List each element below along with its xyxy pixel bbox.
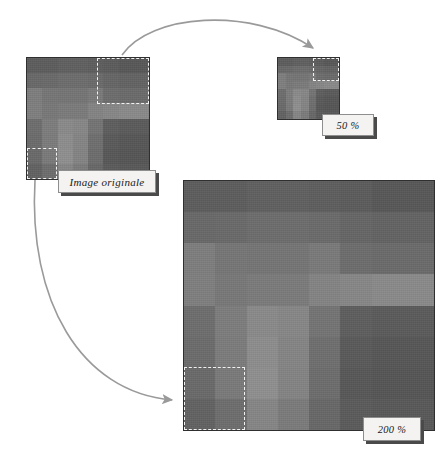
pixel-block [42, 134, 57, 149]
pixel-block [42, 88, 57, 103]
pixel-block [88, 73, 103, 88]
pixel-block [403, 368, 434, 399]
enlarged-image-panel[interactable] [183, 180, 435, 431]
pixel-block [184, 368, 215, 399]
pixel-block [119, 58, 134, 73]
pixel-block [316, 104, 324, 112]
pixel-block [331, 58, 339, 66]
pixel-block [340, 181, 371, 212]
pixel-block [42, 58, 57, 73]
pixel-block [247, 306, 278, 337]
pixel-block [316, 66, 324, 74]
pixel-block [27, 149, 42, 164]
pixel-block [286, 89, 294, 97]
pixel-block [278, 111, 286, 119]
pixel-block [88, 149, 103, 164]
pixel-block [301, 96, 309, 104]
pixel-block [286, 81, 294, 89]
pixel-block [309, 212, 340, 243]
pixel-block [372, 368, 403, 399]
pixel-block [340, 274, 371, 305]
pixel-block [215, 243, 246, 274]
pixel-block [372, 274, 403, 305]
original-image-panel[interactable] [26, 57, 150, 180]
pixel-block [184, 181, 215, 212]
pixel-block [278, 89, 286, 97]
pixel-block [331, 104, 339, 112]
pixel-block [103, 149, 118, 164]
pixel-block [73, 149, 88, 164]
pixel-block [58, 149, 73, 164]
pixel-block [324, 89, 332, 97]
pixel-block [27, 103, 42, 118]
pixel-block [293, 81, 301, 89]
pixel-block [331, 81, 339, 89]
pixel-block [301, 66, 309, 74]
pixel-block [134, 103, 149, 118]
pixel-block [215, 212, 246, 243]
pixel-block [184, 399, 215, 430]
pixel-block [324, 81, 332, 89]
pixel-block [293, 111, 301, 119]
pixel-block [278, 306, 309, 337]
pixel-block [309, 104, 317, 112]
pixel-block [134, 73, 149, 88]
pixel-block [316, 96, 324, 104]
pixel-block [247, 274, 278, 305]
pixel-block [73, 103, 88, 118]
pixel-block [324, 104, 332, 112]
pixel-block [247, 368, 278, 399]
pixel-block [403, 181, 434, 212]
pixel-block [324, 66, 332, 74]
pixel-block [309, 58, 317, 66]
pixel-block [42, 119, 57, 134]
pixel-block [73, 119, 88, 134]
pixel-block [301, 104, 309, 112]
reduced-image-panel[interactable] [277, 57, 340, 120]
pixel-block [134, 58, 149, 73]
pixel-block [27, 119, 42, 134]
pixel-block [293, 104, 301, 112]
pixel-block [278, 243, 309, 274]
pixel-block [293, 73, 301, 81]
pixel-block [134, 88, 149, 103]
pixel-block [403, 243, 434, 274]
pixel-block [309, 73, 317, 81]
pixel-block [88, 88, 103, 103]
pixel-block [184, 337, 215, 368]
pixel-block [215, 399, 246, 430]
pixel-block [309, 274, 340, 305]
pixel-block [73, 134, 88, 149]
original-pixel-grid [27, 58, 149, 179]
pixel-block [331, 73, 339, 81]
pixel-block [286, 66, 294, 74]
pixel-block [88, 134, 103, 149]
pixel-block [247, 243, 278, 274]
pixel-block [42, 149, 57, 164]
pixel-block [103, 58, 118, 73]
pixel-block [184, 243, 215, 274]
pixel-block [309, 337, 340, 368]
pixel-block [73, 58, 88, 73]
arrow-to-enlarged-icon [34, 180, 172, 400]
pixel-block [134, 119, 149, 134]
pixel-block [309, 111, 317, 119]
pixel-block [301, 58, 309, 66]
pixel-block [27, 58, 42, 73]
pixel-block [372, 337, 403, 368]
pixel-block [103, 88, 118, 103]
original-image-label: Image originale [58, 170, 156, 193]
pixel-block [58, 103, 73, 118]
pixel-block [316, 58, 324, 66]
arrow-to-reduced-icon [122, 20, 313, 55]
pixel-block [119, 73, 134, 88]
pixel-block [293, 89, 301, 97]
pixel-block [247, 181, 278, 212]
pixel-block [42, 103, 57, 118]
pixel-block [331, 96, 339, 104]
pixel-block [278, 58, 286, 66]
pixel-block [27, 134, 42, 149]
enlarged-zoom-label: 200 % [363, 417, 421, 441]
pixel-block [293, 96, 301, 104]
pixel-block [331, 89, 339, 97]
